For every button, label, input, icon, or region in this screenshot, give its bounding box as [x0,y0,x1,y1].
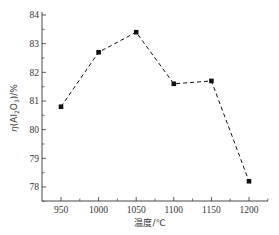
data-line [61,32,249,181]
x-axis-title: 温度/℃ [134,217,165,228]
x-tick-label: 950 [54,205,69,215]
y-tick-label: 79 [30,154,40,164]
line-chart: 78798081828384 95010001050110011501200 温… [0,0,279,235]
y-tick-label: 83 [30,39,40,49]
x-tick-label: 1050 [127,205,146,215]
data-point-marker [172,82,177,87]
data-markers [59,30,252,184]
y-tick-label: 81 [30,96,40,106]
x-tick-label: 1000 [89,205,108,215]
x-tick-label: 1100 [164,205,183,215]
x-tick-label: 1150 [202,205,221,215]
y-tick-label: 84 [30,10,40,20]
data-point-marker [209,79,214,84]
data-point-marker [134,30,139,35]
data-point-marker [59,104,64,109]
y-tick-label: 78 [30,182,40,192]
y-axis-title: η(Al2O3)/% [9,84,20,132]
x-tick-label: 1200 [240,205,259,215]
y-tick-label: 80 [30,125,40,135]
y-axis-ticks: 78798081828384 [30,10,47,201]
data-point-marker [247,179,252,184]
data-point-marker [96,50,101,55]
y-tick-label: 82 [30,68,40,78]
x-axis-ticks: 95010001050110011501200 [54,197,268,215]
axes [42,12,268,201]
